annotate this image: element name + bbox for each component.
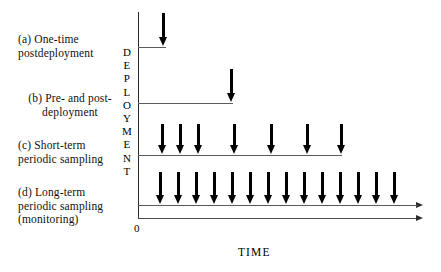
arrow-shaft bbox=[195, 172, 198, 196]
origin-label: 0 bbox=[134, 222, 140, 234]
arrow-head bbox=[227, 93, 235, 102]
sampling-arrow-icon bbox=[176, 172, 180, 203]
sampling-arrow-icon bbox=[266, 172, 270, 203]
sampling-arrow-icon bbox=[356, 172, 360, 203]
y-axis-letter: M bbox=[122, 125, 132, 138]
sampling-arrow-icon bbox=[320, 172, 324, 203]
y-axis-letter: Y bbox=[123, 112, 131, 125]
scenario-baseline-c bbox=[138, 155, 342, 156]
sampling-arrow-icon bbox=[160, 124, 164, 153]
arrow-shaft bbox=[321, 172, 324, 196]
arrow-shaft bbox=[249, 172, 252, 196]
arrow-shaft bbox=[162, 13, 165, 38]
scenario-label-d: (d) Long-term periodic sampling (monitor… bbox=[18, 186, 128, 227]
sampling-arrow-icon bbox=[248, 172, 252, 203]
arrow-head bbox=[354, 195, 362, 204]
arrow-shaft bbox=[213, 172, 216, 196]
sampling-arrow-icon bbox=[158, 172, 162, 203]
arrow-shaft bbox=[340, 124, 343, 146]
scenario-label-a: (a) One-time postdeployment bbox=[18, 33, 126, 60]
sampling-arrow-icon bbox=[269, 124, 273, 153]
sampling-arrow-icon bbox=[302, 172, 306, 203]
sampling-arrow-icon bbox=[305, 124, 309, 153]
arrow-shaft bbox=[306, 124, 309, 146]
arrow-shaft bbox=[375, 172, 378, 196]
y-axis-letter: N bbox=[123, 152, 131, 165]
arrow-head bbox=[372, 195, 380, 204]
arrow-shaft bbox=[230, 69, 233, 94]
arrow-shaft bbox=[267, 172, 270, 196]
sampling-arrow-icon bbox=[194, 172, 198, 203]
arrow-shaft bbox=[303, 172, 306, 196]
sampling-arrow-icon bbox=[229, 69, 233, 101]
sampling-arrow-icon bbox=[284, 172, 288, 203]
sampling-arrow-icon bbox=[232, 124, 236, 153]
arrow-shaft bbox=[233, 124, 236, 146]
scenario-baseline-b bbox=[138, 103, 233, 104]
sampling-arrow-icon bbox=[196, 124, 200, 153]
vertical-axis-line bbox=[138, 12, 139, 219]
arrow-head bbox=[336, 195, 344, 204]
arrow-shaft bbox=[357, 172, 360, 196]
arrow-shaft bbox=[179, 124, 182, 146]
sampling-arrow-icon bbox=[338, 172, 342, 203]
arrow-head bbox=[318, 195, 326, 204]
arrow-shaft bbox=[231, 172, 234, 196]
arrow-head bbox=[176, 145, 184, 154]
arrow-head bbox=[194, 145, 202, 154]
arrow-head bbox=[159, 37, 167, 46]
y-axis-letter: T bbox=[124, 165, 131, 178]
y-axis-letter: D bbox=[123, 46, 131, 59]
scenario-label-c: (c) Short-term periodic sampling bbox=[18, 139, 126, 166]
arrow-head bbox=[300, 195, 308, 204]
sampling-arrow-icon bbox=[374, 172, 378, 203]
arrow-head bbox=[174, 195, 182, 204]
arrow-head bbox=[192, 195, 200, 204]
arrow-head bbox=[230, 145, 238, 154]
sampling-schedule-figure: (a) One-time postdeployment (b) Pre- and… bbox=[0, 0, 441, 272]
arrow-head bbox=[158, 145, 166, 154]
arrow-shaft bbox=[177, 172, 180, 196]
sampling-arrow-icon bbox=[212, 172, 216, 203]
time-axis-line bbox=[138, 218, 418, 219]
sampling-arrow-icon bbox=[230, 172, 234, 203]
scenario-baseline-a bbox=[138, 47, 166, 48]
arrow-head bbox=[264, 195, 272, 204]
sampling-arrow-icon bbox=[178, 124, 182, 153]
arrow-head bbox=[267, 145, 275, 154]
arrow-shaft bbox=[159, 172, 162, 196]
arrow-shaft bbox=[393, 172, 396, 196]
arrow-shaft bbox=[197, 124, 200, 146]
scenario-baseline-d bbox=[138, 205, 418, 206]
y-axis-letter: E bbox=[124, 59, 131, 72]
y-axis-letter: E bbox=[124, 138, 131, 151]
sampling-arrow-icon bbox=[339, 124, 343, 153]
arrow-head bbox=[210, 195, 218, 204]
arrow-head bbox=[156, 195, 164, 204]
arrow-head bbox=[246, 195, 254, 204]
y-axis-letter: P bbox=[124, 72, 130, 85]
sampling-arrow-icon bbox=[392, 172, 396, 203]
arrow-shaft bbox=[339, 172, 342, 196]
arrow-head bbox=[390, 195, 398, 204]
arrow-head bbox=[337, 145, 345, 154]
y-axis-letter: O bbox=[123, 99, 131, 112]
arrow-shaft bbox=[270, 124, 273, 146]
y-axis-letter: L bbox=[124, 86, 131, 99]
sampling-arrow-icon bbox=[161, 13, 165, 45]
scenario-label-b: (b) Pre- and post- deployment bbox=[14, 92, 126, 119]
time-axis-arrowhead-icon bbox=[416, 215, 423, 221]
x-axis-label-time: TIME bbox=[238, 246, 271, 258]
arrow-shaft bbox=[285, 172, 288, 196]
arrow-shaft bbox=[161, 124, 164, 146]
arrow-head bbox=[303, 145, 311, 154]
y-axis-label-deployment: D E P L O Y M E N T bbox=[120, 46, 134, 178]
arrow-head bbox=[228, 195, 236, 204]
arrow-head bbox=[282, 195, 290, 204]
